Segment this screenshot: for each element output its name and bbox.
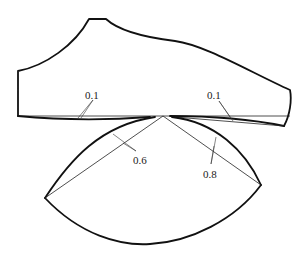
leader-left-0.1 <box>78 100 93 118</box>
label-sector-left-allowance: 0.6 <box>133 154 147 166</box>
label-right-allowance: 0.1 <box>207 89 221 101</box>
label-left-allowance: 0.1 <box>85 89 99 101</box>
sector-bottom-arc <box>45 185 261 244</box>
upper-pattern-outline <box>18 19 291 126</box>
pattern-diagram: 0.1 0.1 0.6 0.8 <box>0 0 306 258</box>
label-sector-right-allowance: 0.8 <box>203 168 217 180</box>
upper-bottom-curve-left <box>18 116 150 119</box>
